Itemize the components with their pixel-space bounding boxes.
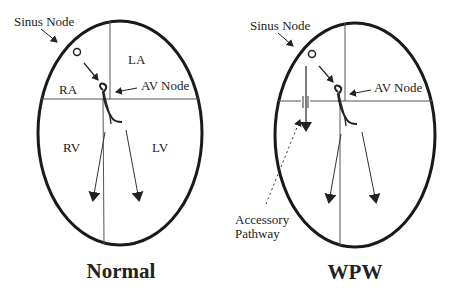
ra-label: RA — [59, 82, 78, 97]
av-label-arrow — [350, 90, 371, 94]
accessory-pathway-pointer — [266, 120, 300, 204]
av-node-label: AV Node — [374, 80, 423, 95]
wpw-title: WPW — [328, 260, 383, 284]
av-node-label: AV Node — [141, 78, 190, 93]
wpw-heart-diagram: Sinus Node AV Node Accessory Pathway WPW — [235, 18, 435, 284]
left-bundle-arrow — [362, 132, 376, 202]
sinus-label-arrow — [278, 33, 293, 46]
av-node-bundle — [335, 85, 357, 124]
lv-label: LV — [152, 140, 169, 155]
normal-title: Normal — [87, 259, 156, 283]
rv-label: RV — [63, 140, 81, 155]
av-label-arrow — [116, 88, 137, 92]
left-bundle-arrow — [126, 130, 139, 200]
sinus-to-av-arrow — [319, 66, 333, 82]
accessory-label-line2: Pathway — [235, 226, 280, 241]
la-label: LA — [128, 52, 146, 67]
sinus-label-arrow — [41, 29, 57, 42]
heart-outline — [275, 23, 435, 247]
heart-conduction-diagram: Sinus Node AV Node LA RA RV LV Normal Si… — [0, 0, 453, 295]
heart-outline — [38, 21, 202, 245]
sinus-node-icon — [74, 49, 81, 56]
sinus-node-label: Sinus Node — [250, 18, 311, 33]
ventricular-septum — [103, 99, 104, 244]
sinus-node-label: Sinus Node — [14, 14, 75, 29]
accessory-label-line1: Accessory — [235, 212, 290, 227]
sinus-to-av-arrow — [84, 63, 98, 80]
right-bundle-arrow — [329, 134, 341, 202]
sinus-node-icon — [309, 51, 316, 58]
normal-heart-diagram: Sinus Node AV Node LA RA RV LV Normal — [14, 14, 202, 283]
